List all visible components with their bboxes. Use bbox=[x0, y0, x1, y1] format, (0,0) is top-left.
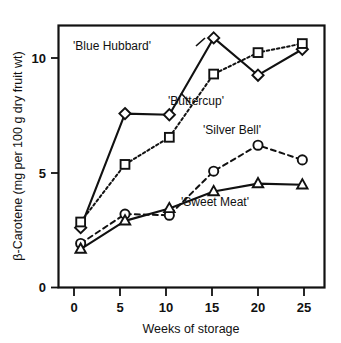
x-axis-title: Weeks of storage bbox=[142, 322, 239, 336]
y-axis-title: β-Carotene (mg per 100 g dry fruit wt) bbox=[11, 51, 25, 260]
data-point-marker bbox=[165, 133, 174, 142]
beta-carotene-line-chart: 10 5 0 0 5 10 15 20 25 Weeks of storage … bbox=[0, 0, 341, 343]
data-point-marker bbox=[121, 160, 130, 169]
x-tick-label-10: 10 bbox=[159, 300, 173, 315]
data-point-marker bbox=[298, 39, 307, 48]
data-point-marker bbox=[254, 48, 263, 57]
x-tick-label-5: 5 bbox=[116, 300, 123, 315]
series-annotation-label: 'Sweet Meat' bbox=[181, 195, 249, 209]
y-tick-label-5: 5 bbox=[39, 166, 46, 181]
data-point-marker bbox=[253, 141, 262, 150]
chart-background bbox=[0, 0, 341, 343]
x-tick-label-20: 20 bbox=[251, 300, 265, 315]
data-point-marker bbox=[298, 155, 307, 164]
chart-figure: 10 5 0 0 5 10 15 20 25 Weeks of storage … bbox=[0, 0, 341, 343]
x-tick-label-25: 25 bbox=[297, 300, 311, 315]
y-tick-label-10: 10 bbox=[32, 51, 46, 66]
x-tick-label-0: 0 bbox=[70, 300, 77, 315]
series-annotation-label: 'Blue Hubbard' bbox=[73, 39, 151, 53]
x-tick-label-15: 15 bbox=[205, 300, 219, 315]
y-tick-label-0: 0 bbox=[39, 280, 46, 295]
series-annotation-label: 'Silver Bell' bbox=[203, 123, 261, 137]
data-point-marker bbox=[209, 70, 218, 79]
series-annotation-label: 'Buttercup' bbox=[168, 94, 224, 108]
data-point-marker bbox=[76, 218, 85, 227]
data-point-marker bbox=[209, 167, 218, 176]
